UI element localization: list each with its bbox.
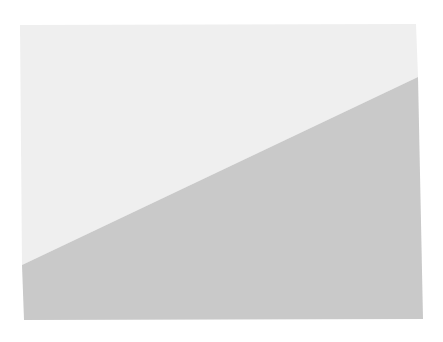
diagonal-split-diagram bbox=[0, 0, 443, 342]
